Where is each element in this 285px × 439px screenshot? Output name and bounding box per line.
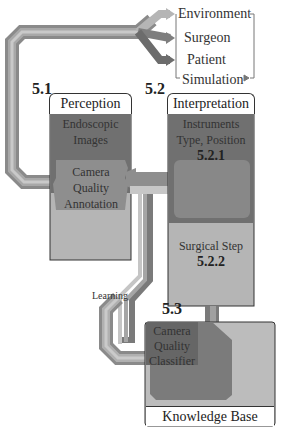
simulation-bracket	[176, 14, 254, 81]
source-simulation: Simulation	[182, 72, 243, 88]
endoscopic-images-label: Endoscopic Images	[52, 116, 129, 148]
instruments-label: Instruments Type, Position	[170, 116, 252, 148]
interpretation-title: Interpretation	[167, 93, 255, 114]
source-surgeon: Surgeon	[184, 30, 230, 46]
instruments-number: 5.2.1	[170, 148, 252, 164]
knowledge-base-title: Knowledge Base	[146, 406, 274, 426]
section-number-interpretation: 5.2	[145, 80, 165, 98]
diagram-canvas	[0, 0, 285, 439]
camera-quality-annotation-label: Camera Quality Annotation	[56, 164, 126, 212]
source-patient: Patient	[187, 52, 226, 68]
source-branches	[138, 8, 175, 66]
perception-title: Perception	[49, 93, 132, 114]
section-number-classifier: 5.3	[162, 300, 182, 318]
camera-quality-classifier-label: Camera Quality Classifier	[146, 324, 198, 369]
source-environment: Environment	[178, 6, 251, 22]
learning-label: Learning	[92, 290, 128, 301]
surgical-step-label: Surgical Step	[170, 238, 252, 254]
surgical-step-number: 5.2.2	[170, 254, 252, 270]
